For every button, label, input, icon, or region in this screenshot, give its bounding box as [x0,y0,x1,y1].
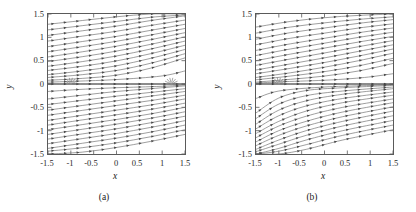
xtick-label-b-6: 1.5 [380,159,406,168]
xtick-label-a-6: 1.5 [172,159,198,168]
figure-container: 1.5 1 0.5 0 -0.5 -1 -1.5 -1.5 -1 -0.5 0 … [0,0,416,212]
xtick-label-a-4: 0.5 [124,159,150,168]
panel-b: 1.5 1 0.5 0 -0.5 -1 -1.5 -1.5 -1 -0.5 0 … [208,0,416,212]
x-axis-label-b: x [321,172,325,182]
vector-field-a [48,14,185,154]
ytick-label-b-3: 0 [230,80,252,89]
xtick-label-b-4: 0.5 [332,159,358,168]
panel-caption-a: (a) [0,193,208,203]
panel-caption-b: (b) [208,193,416,203]
ytick-label-a-1: 1 [22,33,44,42]
ytick-label-b-2: 0.5 [230,56,252,65]
plot-area-a [47,13,186,155]
ytick-label-a-2: 0.5 [22,56,44,65]
ytick-label-a-0: 1.5 [22,10,44,19]
xtick-label-b-0: -1.5 [243,159,267,168]
ytick-label-a-4: -0.5 [20,103,44,112]
y-axis-label-b: y [213,77,223,89]
ytick-label-a-3: 0 [22,80,44,89]
ytick-label-a-5: -1 [20,127,44,136]
ytick-label-b-5: -1 [228,127,252,136]
plot-area-b [255,13,394,155]
xtick-label-b-5: 1 [358,159,382,168]
y-axis-label-a: y [5,77,15,89]
panel-a: 1.5 1 0.5 0 -0.5 -1 -1.5 -1.5 -1 -0.5 0 … [0,0,208,212]
xtick-label-a-0: -1.5 [35,159,59,168]
x-axis-label-a: x [113,172,117,182]
ytick-label-b-0: 1.5 [230,10,252,19]
xtick-label-b-2: -0.5 [286,159,312,168]
ytick-label-b-1: 1 [230,33,252,42]
xtick-label-a-5: 1 [150,159,174,168]
ytick-label-b-4: -0.5 [228,103,252,112]
vector-field-b [256,14,393,154]
xtick-label-a-2: -0.5 [78,159,104,168]
